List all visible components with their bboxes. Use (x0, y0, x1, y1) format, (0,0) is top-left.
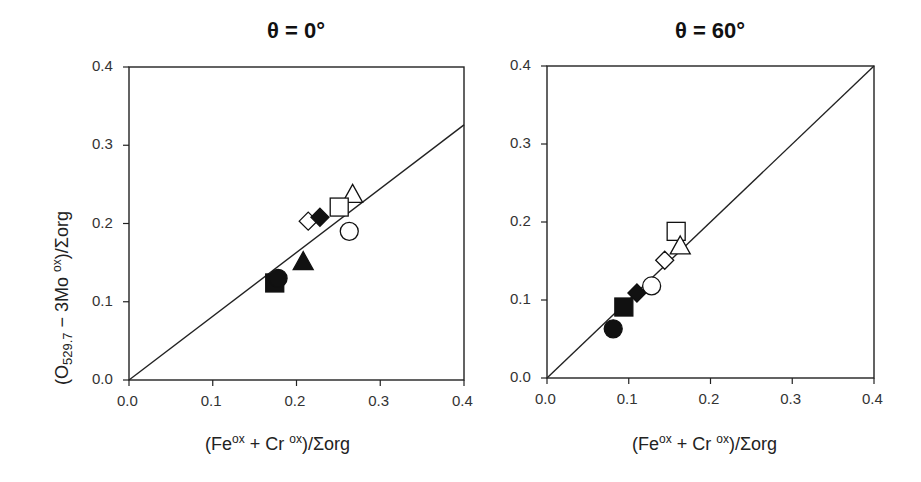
y-tick-label: 0.3 (510, 134, 531, 151)
y-tick-label: 0.4 (510, 56, 531, 73)
x-tick-label: 0.4 (452, 392, 473, 409)
y-tick-label: 0.2 (510, 212, 531, 229)
y-tick-label: 0.3 (92, 135, 113, 152)
fit-line (547, 66, 874, 378)
y-tick-label: 0.2 (92, 214, 113, 231)
y-tick-label: 0.0 (92, 370, 113, 387)
y-tick-label: 0.0 (510, 368, 531, 385)
y-tick-label: 0.4 (92, 57, 113, 74)
x-tick-label: 0.3 (368, 392, 389, 409)
y-tick-label: 0.1 (92, 292, 113, 309)
plot-area (0, 0, 921, 482)
x-tick-label: 0.4 (862, 390, 883, 407)
y-tick-label: 0.1 (510, 290, 531, 307)
x-axis-label: (Feox + Cr ox)/Σorg (632, 432, 777, 455)
x-tick-label: 0.1 (617, 390, 638, 407)
x-tick-label: 0.0 (117, 392, 138, 409)
open-square-marker (667, 222, 685, 240)
x-tick-label: 0.2 (285, 392, 306, 409)
filled-square-marker (615, 298, 633, 316)
x-tick-label: 0.2 (699, 390, 720, 407)
x-tick-label: 0.0 (535, 390, 556, 407)
x-tick-label: 0.1 (201, 392, 222, 409)
x-tick-label: 0.3 (780, 390, 801, 407)
filled-circle-marker (604, 320, 622, 338)
